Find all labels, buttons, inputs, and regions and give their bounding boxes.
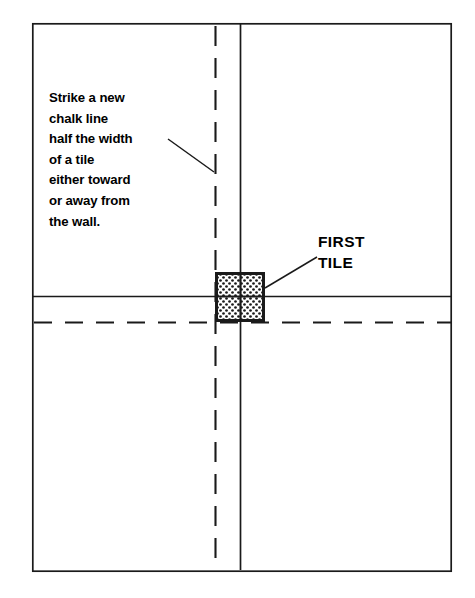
tile-layout-diagram: Strike a new chalk line half the width o… <box>0 0 475 598</box>
first-tile-leader-line <box>265 257 317 288</box>
instruction-note: Strike a new chalk line half the width o… <box>49 88 209 232</box>
first-tile <box>217 274 264 321</box>
first-tile-label: FIRST TILE <box>318 231 365 273</box>
